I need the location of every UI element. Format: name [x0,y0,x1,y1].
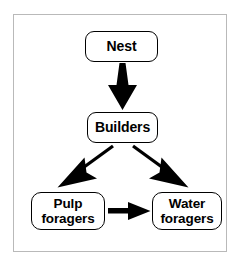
diagram-canvas: Nest Builders Pulp foragers Water forage… [0,0,245,266]
arrow-pulp-to-water [108,202,151,220]
node-water-foragers[interactable]: Water foragers [152,192,222,230]
arrow-builders-to-water [133,146,189,188]
node-builders-label: Builders [95,120,150,136]
node-pulp-foragers[interactable]: Pulp foragers [31,192,105,230]
arrow-builders-to-pulp [58,146,114,188]
arrow-nest-to-builders [108,63,137,110]
node-water-foragers-label: Water foragers [160,196,213,226]
node-builders[interactable]: Builders [87,112,158,143]
node-pulp-foragers-label: Pulp foragers [41,196,94,226]
node-nest[interactable]: Nest [85,31,158,62]
node-nest-label: Nest [107,39,137,55]
